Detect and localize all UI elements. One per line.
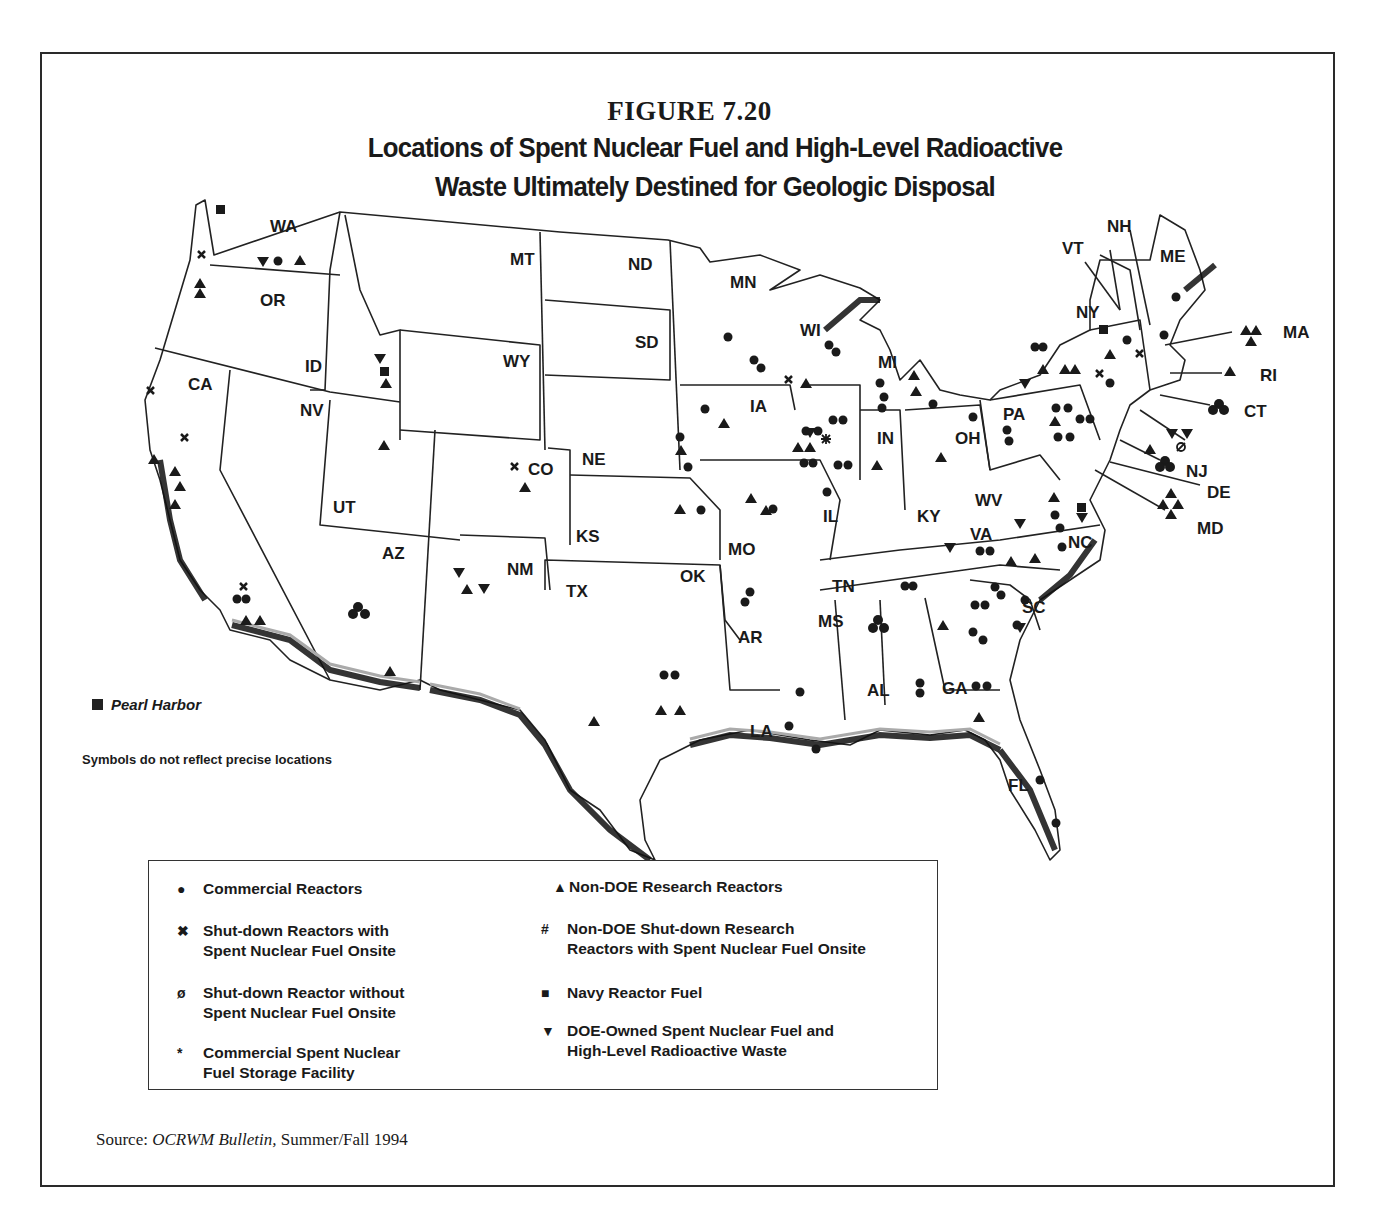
state-label-ar: AR <box>738 628 763 647</box>
state-label-mn: MN <box>730 273 756 292</box>
state-label-fl: FL <box>1008 776 1029 795</box>
state-label-nv: NV <box>300 401 324 420</box>
state-label-nh: NH <box>1107 217 1132 236</box>
legend-item-doe-owned: ▼ DOE-Owned Spent Nuclear Fuel andHigh-L… <box>541 1021 834 1061</box>
state-label-nd: ND <box>628 255 653 274</box>
state-label-ut: UT <box>333 498 356 517</box>
state-label-vt: VT <box>1062 239 1084 258</box>
x-icon <box>147 251 1143 590</box>
square-icon <box>92 699 103 710</box>
circle-icon: ● <box>177 879 203 899</box>
state-label-oh: OH <box>955 429 981 448</box>
state-label-ks: KS <box>576 527 600 546</box>
state-label-il: IL <box>823 507 838 526</box>
legend-item-shutdown-with-fuel: ✖ Shut-down Reactors withSpent Nuclear F… <box>177 921 396 961</box>
state-label-tn: TN <box>832 577 855 596</box>
disclaimer-note: Symbols do not reflect precise locations <box>82 752 332 767</box>
state-label-al: AL <box>867 681 890 700</box>
source-publication: OCRWM Bulletin, <box>152 1130 276 1149</box>
square-icon: ■ <box>541 983 567 1003</box>
state-label-mi: MI <box>878 353 897 372</box>
state-label-ky: KY <box>917 507 941 526</box>
state-label-wi: WI <box>800 321 821 340</box>
state-label-ca: CA <box>188 375 213 394</box>
asterisk-icon <box>821 434 831 444</box>
state-label-ms: MS <box>818 612 844 631</box>
state-label-in: IN <box>877 429 894 448</box>
state-label-id: ID <box>305 357 322 376</box>
state-label-ct: CT <box>1244 402 1267 421</box>
state-labels: WAORCAIDNVMTWYUTAZCONMNDSDNEKSOKTXMNIAMO… <box>188 217 1309 795</box>
state-label-mo: MO <box>728 540 755 559</box>
hash-icon: # <box>541 919 567 939</box>
state-label-ia: IA <box>750 397 767 416</box>
state-label-ga: GA <box>942 679 968 698</box>
square-icon <box>216 205 1108 512</box>
state-label-va: VA <box>970 525 992 544</box>
state-label-wy: WY <box>503 352 531 371</box>
legend-item-shutdown-without-fuel: ø Shut-down Reactor withoutSpent Nuclear… <box>177 983 404 1023</box>
state-label-ok: OK <box>680 567 706 586</box>
slashed-circle-icon: ø <box>177 983 203 1003</box>
state-label-tx: TX <box>566 582 588 601</box>
state-label-sd: SD <box>635 333 659 352</box>
triangle-down-icon: ▼ <box>541 1021 567 1041</box>
asterisk-icon: * <box>177 1043 203 1063</box>
source-citation: Source: OCRWM Bulletin, Summer/Fall 1994 <box>96 1130 408 1150</box>
state-label-or: OR <box>260 291 286 310</box>
state-label-ny: NY <box>1076 303 1100 322</box>
state-label-nm: NM <box>507 560 533 579</box>
legend-item-storage-facility: * Commercial Spent NuclearFuel Storage F… <box>177 1043 400 1083</box>
legend-item-non-doe-shutdown: # Non-DOE Shut-down ResearchReactors wit… <box>541 919 866 959</box>
legend: ● Commercial Reactors ✖ Shut-down Reacto… <box>148 860 938 1090</box>
state-label-nc: NC <box>1068 533 1093 552</box>
state-label-co: CO <box>528 460 554 479</box>
state-label-wa: WA <box>270 217 297 236</box>
x-icon: ✖ <box>177 921 203 941</box>
state-label-nj: NJ <box>1186 462 1208 481</box>
state-label-me: ME <box>1160 247 1186 266</box>
state-label-de: DE <box>1207 483 1231 502</box>
triangle-up-icon: ▲ <box>553 877 569 897</box>
legend-item-commercial-reactors: ● Commercial Reactors <box>177 879 362 899</box>
state-label-wv: WV <box>975 491 1003 510</box>
triangle-down-icon <box>257 257 1193 633</box>
state-label-la: LA <box>750 722 773 741</box>
slashed-circle-icon <box>1177 443 1185 451</box>
state-label-pa: PA <box>1003 405 1025 424</box>
state-label-mt: MT <box>510 250 535 269</box>
state-label-ma: MA <box>1283 323 1309 342</box>
pearl-harbor-label: Pearl Harbor <box>111 696 201 713</box>
state-label-az: AZ <box>382 544 405 563</box>
state-label-ri: RI <box>1260 366 1277 385</box>
legend-item-non-doe-research: ▲ Non-DOE Research Reactors <box>553 877 783 897</box>
legend-item-navy-fuel: ■ Navy Reactor Fuel <box>541 983 702 1003</box>
pearl-harbor-inset: Pearl Harbor <box>92 696 201 713</box>
state-label-ne: NE <box>582 450 606 469</box>
state-label-md: MD <box>1197 519 1223 538</box>
